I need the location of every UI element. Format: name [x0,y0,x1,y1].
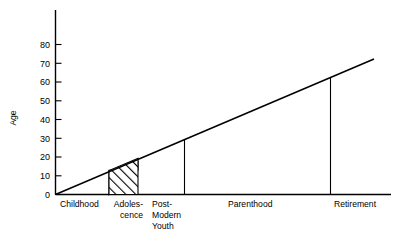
y-axis-tick-labels: 80 70 60 50 40 30 20 10 0 [40,40,50,200]
y-tick-label-20: 20 [40,152,50,162]
stage-label-post-modern-youth-line3: Youth [152,221,174,231]
stage-label-post-modern-youth-line1: Post- [152,199,172,209]
y-tick-label-40: 40 [40,115,50,125]
stage-label-post-modern-youth-line2: Modern [152,210,181,220]
stage-label-childhood: Childhood [60,199,99,209]
stage-label-parenthood: Parenthood [228,199,273,209]
chart-canvas: 80 70 60 50 40 30 20 10 0 Age Childhood … [0,0,395,247]
y-tick-label-80: 80 [40,40,50,50]
y-tick-label-30: 30 [40,134,50,144]
stage-label-adolescence-line1: Adoles- [114,199,143,209]
stage-label-adolescence-line2: cence [120,210,143,220]
y-tick-label-70: 70 [40,59,50,69]
y-tick-label-0: 0 [45,190,50,200]
age-trend-line [56,59,375,195]
y-axis-title: Age [8,110,18,125]
y-tick-label-50: 50 [40,96,50,106]
y-tick-label-60: 60 [40,77,50,87]
life-course-age-chart: 80 70 60 50 40 30 20 10 0 Age Childhood … [0,0,395,247]
y-tick-label-10: 10 [40,171,50,181]
stage-label-retirement: Retirement [334,199,377,209]
adolescence-hatched-band [109,158,138,194]
y-axis-ticks [56,45,62,195]
